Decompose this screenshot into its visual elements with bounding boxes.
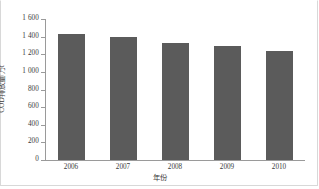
bar	[162, 43, 189, 160]
bar	[58, 34, 85, 160]
y-axis-title: COD排放量/万t	[0, 41, 6, 89]
y-tick-label: 1 000	[22, 68, 39, 75]
y-tick-label: 1 600	[22, 15, 39, 22]
x-tick-label: 2010	[272, 164, 286, 171]
bar-chart-figure: COD排放量/万t 1 6001 4001 2001 0008006004002…	[0, 0, 319, 189]
bar	[110, 37, 137, 160]
bar	[266, 51, 293, 160]
x-tick-label: 2008	[168, 164, 182, 171]
y-tick-label: 200	[28, 139, 39, 146]
plot-area	[45, 19, 305, 160]
y-tick-label: 1 400	[22, 33, 39, 40]
x-axis-line	[45, 160, 305, 161]
x-axis-title: 年份	[0, 174, 319, 181]
y-tick-label: 800	[28, 86, 39, 93]
y-tick-label: 600	[28, 104, 39, 111]
y-axis-title-text: COD排放量/万t	[0, 65, 6, 113]
x-tick-label: 2006	[64, 164, 78, 171]
y-tick-mark	[41, 160, 45, 161]
y-tick-label: 0	[35, 156, 39, 163]
bar	[214, 46, 241, 160]
y-tick-label: 400	[28, 121, 39, 128]
y-tick-label: 1 200	[22, 51, 39, 58]
x-tick-label: 2007	[116, 164, 130, 171]
x-tick-label: 2009	[220, 164, 234, 171]
